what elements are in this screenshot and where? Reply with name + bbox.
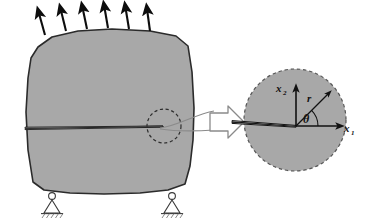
support-right-hatching (162, 214, 183, 218)
crack-tip-inset: x 2 x 1 r θ (232, 69, 355, 171)
load-arrow-6 (147, 9, 150, 31)
support-right (161, 193, 183, 218)
x1-label-subscript: 1 (351, 129, 355, 137)
fracture-mechanics-figure: x 2 x 1 r θ (0, 0, 365, 224)
x1-label: x (343, 122, 350, 134)
support-right-triangle (164, 200, 180, 213)
support-left (41, 193, 63, 218)
support-left-hatching (42, 214, 63, 218)
load-arrow-4 (104, 6, 108, 28)
x2-label: x (275, 82, 282, 94)
load-arrow-2 (61, 9, 66, 31)
support-right-roller (169, 193, 176, 200)
cracked-body-group (25, 29, 194, 194)
r-label: r (307, 92, 312, 104)
load-arrow-1 (39, 12, 45, 35)
support-left-triangle (44, 200, 60, 213)
load-arrow-3 (82, 7, 87, 29)
roller-supports (41, 193, 183, 218)
theta-label: θ (303, 112, 310, 126)
load-arrow-5 (125, 7, 129, 29)
body-outline (26, 29, 194, 194)
support-left-roller (49, 193, 56, 200)
figure-canvas: x 2 x 1 r θ (0, 0, 365, 224)
x2-label-subscript: 2 (282, 89, 287, 97)
inset-boundary-circle (244, 69, 346, 171)
